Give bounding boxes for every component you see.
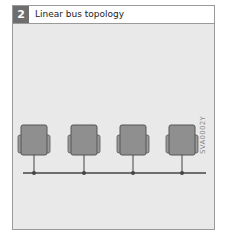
station-2 bbox=[68, 125, 100, 175]
figure-code: SVA0002Y bbox=[199, 94, 209, 154]
station-1 bbox=[18, 125, 50, 175]
bus-topology-diagram bbox=[13, 24, 216, 231]
figure-header: 2 Linear bus topology bbox=[13, 6, 214, 24]
figure-number: 2 bbox=[13, 6, 29, 23]
figure-panel: 2 Linear bus topology bbox=[12, 5, 215, 230]
figure-title: Linear bus topology bbox=[35, 6, 124, 23]
station-4 bbox=[166, 125, 198, 175]
station-3 bbox=[117, 125, 149, 175]
